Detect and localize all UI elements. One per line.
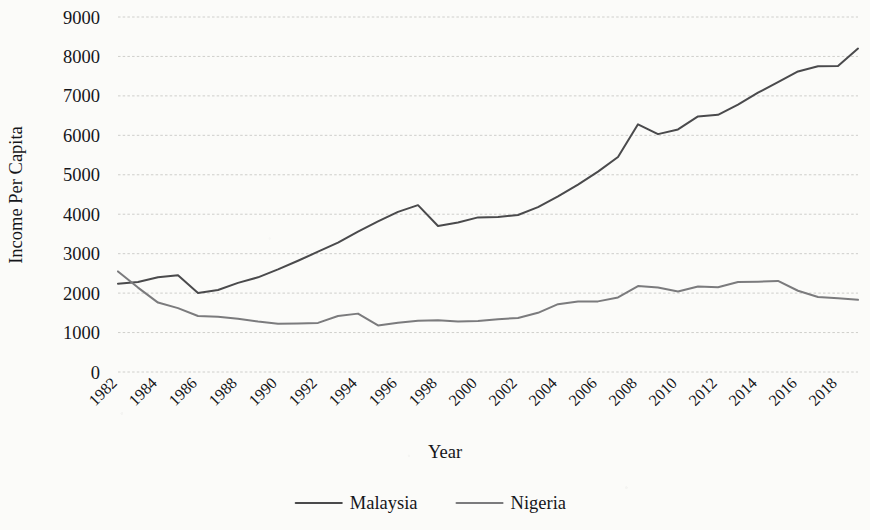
- y-axis-tick-label: 9000: [63, 8, 100, 28]
- legend-label-malaysia: Malaysia: [350, 493, 418, 513]
- y-axis-tick-label: 2000: [63, 284, 100, 304]
- x-axis-title: Year: [428, 442, 462, 462]
- chart-canvas: 0100020003000400050006000700080009000 In…: [0, 0, 870, 530]
- y-axis-tick-label: 0: [91, 363, 100, 383]
- y-axis-title: Income Per Capita: [6, 126, 26, 264]
- y-axis-tick-label: 6000: [63, 126, 100, 146]
- legend-label-nigeria: Nigeria: [511, 493, 566, 513]
- y-axis-tick-label: 5000: [63, 165, 100, 185]
- y-axis-tick-label: 4000: [63, 205, 100, 225]
- line-chart: 0100020003000400050006000700080009000 In…: [0, 0, 870, 530]
- y-axis-tick-label: 3000: [63, 244, 100, 264]
- y-axis-tick-label: 1000: [63, 323, 100, 343]
- y-axis-tick-label: 8000: [63, 47, 100, 67]
- y-axis-tick-label: 7000: [63, 86, 100, 106]
